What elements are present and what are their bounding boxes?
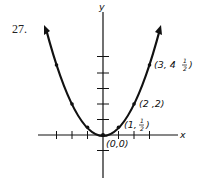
label-point-1: (1, xyxy=(124,119,137,130)
arrow-right-icon xyxy=(155,25,162,35)
label-point-1-frac-den: 2 xyxy=(140,125,144,132)
label-point-3-frac-num: 1 xyxy=(183,57,187,64)
x-axis-label: x xyxy=(179,129,186,140)
label-origin: (0,0) xyxy=(106,138,129,149)
label-point-3: (3, 4 xyxy=(154,59,176,70)
label-point-2: (2 ,2) xyxy=(139,98,165,109)
label-point-3-frac-den: 2 xyxy=(183,65,187,72)
label-point-3-close: ) xyxy=(188,59,193,70)
label-point-1-frac-num: 1 xyxy=(140,117,144,124)
label-point-1-close: ) xyxy=(145,119,150,130)
y-axis-label: y xyxy=(98,1,105,12)
parabola-graph: x y (0,0) (1, 1 2 ) (2 ,2) (3, 4 xyxy=(0,0,202,180)
